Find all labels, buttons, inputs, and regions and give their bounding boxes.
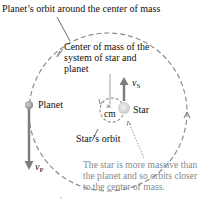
cm-label-line-1: Center of mass of the bbox=[64, 41, 150, 52]
star-velocity-label: vS bbox=[132, 77, 140, 92]
note-leader-arrow bbox=[127, 121, 131, 126]
note-leader-line bbox=[128, 121, 144, 158]
note-line-3: to the center of mass. bbox=[83, 181, 165, 192]
planet-orbit-arrow-top bbox=[57, 49, 63, 57]
star-velocity-subscript: S bbox=[136, 82, 140, 90]
star-orbit-label: Star’s orbit bbox=[76, 133, 121, 144]
small-dot bbox=[60, 197, 62, 199]
star-orbit-arrow bbox=[99, 99, 104, 104]
cm-label-line-2: system of star and bbox=[64, 52, 137, 63]
planet-orbit-title: Planet’s orbit around the center of mass bbox=[2, 3, 160, 14]
planet-velocity-subscript: P bbox=[39, 166, 43, 174]
planet-velocity-label: vP bbox=[35, 161, 43, 176]
note-line-1: The star is more massive than bbox=[83, 159, 197, 170]
planet-velocity-arrowhead bbox=[25, 161, 34, 170]
star-label: Star bbox=[133, 104, 149, 115]
note-line-2: the planet and so orbits closer bbox=[83, 170, 197, 181]
star-velocity-arrowhead bbox=[120, 77, 129, 85]
cm-label: cm bbox=[104, 109, 116, 120]
planet-label: Planet bbox=[38, 99, 63, 110]
cm-label-line-3: planet bbox=[64, 63, 88, 74]
title-leader-line bbox=[57, 17, 70, 41]
planet bbox=[25, 101, 33, 109]
star bbox=[118, 102, 130, 114]
